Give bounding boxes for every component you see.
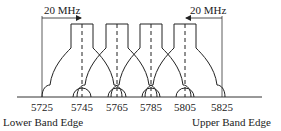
channel-5805 xyxy=(145,24,225,97)
tick-label-5785: 5785 xyxy=(140,101,163,113)
channel-5785 xyxy=(111,24,191,97)
tick-label-5825: 5825 xyxy=(211,101,234,113)
tick-labels: 572557455765578558055825 xyxy=(31,101,234,113)
tick-label-5765: 5765 xyxy=(106,101,129,113)
tick-label-5805: 5805 xyxy=(174,101,197,113)
upper-band-edge-label: Upper Band Edge xyxy=(192,116,271,128)
lower-bandwidth-label: 20 MHz xyxy=(44,4,80,16)
channel-masks xyxy=(42,24,225,97)
channel-spectrum-diagram: 20 MHz 20 MHz 572557455765578558055825 L… xyxy=(0,0,281,131)
lower-band-edge-label: Lower Band Edge xyxy=(3,116,83,128)
tick-label-5745: 5745 xyxy=(71,101,94,113)
upper-bandwidth-label: 20 MHz xyxy=(190,4,226,16)
tick-label-5725: 5725 xyxy=(31,101,54,113)
